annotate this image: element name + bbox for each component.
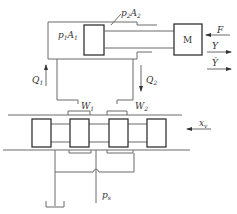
port-w1-notch bbox=[68, 111, 90, 115]
spool-land-4 bbox=[147, 119, 166, 147]
piston bbox=[84, 25, 104, 55]
label-Q1: Q1 bbox=[32, 75, 43, 86]
label-xv: xv bbox=[199, 118, 208, 129]
label-p1A1: p1A1 bbox=[58, 30, 78, 41]
piston-rod bbox=[104, 31, 174, 48]
spool-land-2 bbox=[70, 119, 89, 147]
label-mass: M bbox=[183, 35, 192, 45]
label-Q2: Q2 bbox=[146, 75, 157, 86]
label-displacement: Y bbox=[212, 41, 219, 51]
port-w2-notch bbox=[107, 111, 127, 115]
label-ps: ps bbox=[102, 190, 111, 201]
port-line-1 bbox=[57, 59, 78, 104]
return-crossover-line bbox=[55, 153, 134, 172]
label-W2: W2 bbox=[135, 101, 148, 112]
label-velocity: Ẏ bbox=[212, 57, 219, 68]
servo-system-diagram: p1A1 p2A2 M F Y Ẏ Q1 Q2 W1 W2 xv ps bbox=[0, 0, 237, 214]
spool-land-3 bbox=[109, 119, 128, 147]
label-p2A2: p2A2 bbox=[121, 8, 141, 19]
label-W1: W1 bbox=[81, 101, 94, 112]
port-line-2 bbox=[117, 59, 133, 104]
p2A2-leader-line bbox=[111, 14, 121, 25]
spool-land-1 bbox=[32, 119, 51, 147]
label-force: F bbox=[216, 25, 224, 35]
